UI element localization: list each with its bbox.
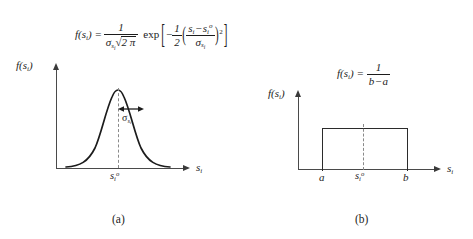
probability-density-figure: f(si) = 1 σsi√2 π exp[− 1 2 ( si−sio σsi…	[0, 0, 473, 239]
formula-b-denominator: b−a	[367, 75, 390, 87]
panel-b-x-axis-arrow-icon	[434, 166, 441, 172]
panel-b-formula: f(si) = 1 b−a	[337, 62, 390, 87]
panel-b-y-axis	[298, 97, 299, 170]
panel-b-tick-label-b: b	[403, 172, 409, 183]
formula-b-fraction: 1 b−a	[367, 62, 390, 87]
panel-b-x-axis-label: si	[447, 163, 453, 174]
panel-b-tick-label-a: a	[319, 172, 325, 183]
uniform-distribution-rectangle	[322, 128, 408, 171]
panel-b-mean-tick-label: sio	[355, 171, 364, 182]
panel-b-caption: (b)	[355, 213, 368, 225]
formula-b-lhs: f(si) =	[337, 67, 364, 79]
panel-a-caption: (a)	[112, 213, 125, 225]
panel-b-y-axis-arrow-icon	[295, 90, 301, 97]
panel-a-mean-tick-label: sio	[110, 171, 119, 182]
panel-a-sigma-arrow	[0, 0, 473, 239]
panel-a-sigma-label: σsi	[122, 113, 131, 123]
panel-b-y-axis-label: f(si)	[268, 88, 285, 99]
panel-b-mean-dashed-line	[363, 124, 364, 170]
